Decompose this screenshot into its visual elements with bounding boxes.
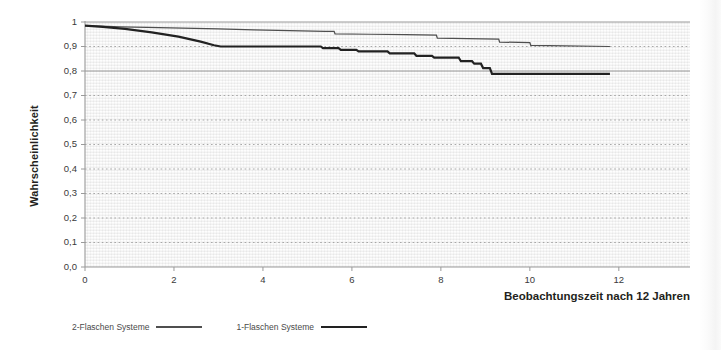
y-tick-label: 0,7 bbox=[43, 89, 77, 100]
y-tick-label: 0,1 bbox=[43, 236, 77, 247]
x-tick-label: 10 bbox=[515, 274, 545, 285]
legend-item-1-flaschen: 1-Flaschen Systeme bbox=[236, 322, 366, 332]
y-tick-label: 0,5 bbox=[43, 138, 77, 149]
legend-swatch-2-flaschen bbox=[156, 326, 202, 327]
chart-legend: 2-Flaschen Systeme 1-Flaschen Systeme bbox=[72, 322, 367, 332]
y-tick-label: 0,2 bbox=[43, 212, 77, 223]
figure: Wahrscheinlichkeit Beobachtungszeit nach… bbox=[0, 0, 721, 350]
y-tick-label: 0,8 bbox=[43, 65, 77, 76]
x-tick-label: 0 bbox=[70, 274, 100, 285]
y-tick-label: 0,6 bbox=[43, 114, 77, 125]
x-tick-label: 8 bbox=[426, 274, 456, 285]
legend-swatch-1-flaschen bbox=[321, 326, 367, 328]
y-tick-label: 0,3 bbox=[43, 187, 77, 198]
y-tick-label: 0,9 bbox=[43, 40, 77, 51]
x-tick-label: 4 bbox=[248, 274, 278, 285]
y-tick-label: 1 bbox=[43, 16, 77, 27]
legend-label-2-flaschen: 2-Flaschen Systeme bbox=[72, 322, 149, 332]
x-tick-label: 2 bbox=[159, 274, 189, 285]
x-tick-label: 12 bbox=[604, 274, 634, 285]
x-tick-label: 6 bbox=[337, 274, 367, 285]
x-axis-title: Beobachtungszeit nach 12 Jahren bbox=[420, 290, 690, 302]
legend-item-2-flaschen: 2-Flaschen Systeme bbox=[72, 322, 202, 332]
y-tick-label: 0,4 bbox=[43, 163, 77, 174]
legend-label-1-flaschen: 1-Flaschen Systeme bbox=[236, 322, 313, 332]
y-tick-label: 0,0 bbox=[43, 261, 77, 272]
y-axis-title: Wahrscheinlichkeit bbox=[28, 76, 40, 236]
